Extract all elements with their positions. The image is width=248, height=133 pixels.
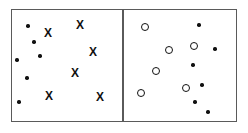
dot-marker	[213, 47, 216, 50]
x-marker: X	[87, 46, 99, 58]
x-marker: X	[42, 27, 54, 39]
dot-marker	[32, 40, 35, 43]
dot-marker	[200, 83, 203, 86]
dot-marker	[193, 100, 196, 103]
figure-canvas: XXXXXX	[0, 0, 248, 133]
x-marker: X	[74, 19, 86, 31]
dot-marker	[25, 76, 28, 79]
dot-marker	[15, 58, 18, 61]
dot-marker	[26, 24, 29, 27]
x-marker: X	[43, 90, 55, 102]
dot-marker	[17, 100, 20, 103]
x-marker: X	[94, 91, 106, 103]
dot-marker	[197, 23, 200, 26]
dot-marker	[191, 63, 194, 66]
panel-divider-line	[122, 9, 124, 122]
dot-marker	[206, 110, 209, 113]
x-marker: X	[69, 67, 81, 79]
dot-marker	[38, 54, 41, 57]
